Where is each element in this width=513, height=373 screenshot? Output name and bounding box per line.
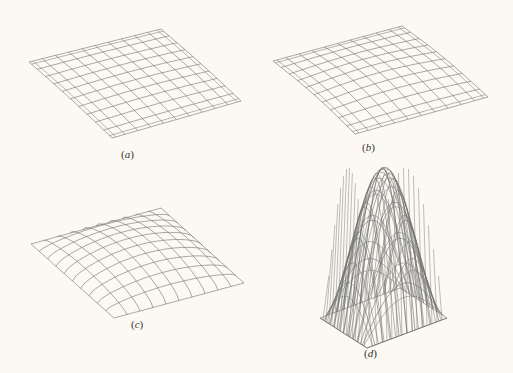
mesh-line	[71, 64, 202, 99]
mesh-line	[398, 27, 484, 98]
mesh-line	[110, 99, 239, 136]
mesh-line	[328, 283, 375, 345]
mesh-line	[281, 32, 410, 67]
mesh-line	[112, 101, 241, 138]
mesh-line	[339, 81, 471, 118]
mesh-line	[37, 36, 169, 69]
mesh-line	[366, 169, 413, 331]
mesh-line	[135, 36, 216, 109]
mesh-line	[161, 29, 241, 101]
mesh-line	[286, 58, 368, 131]
mesh-line	[69, 52, 151, 127]
mesh-line	[64, 232, 194, 273]
panel-d-mesh	[320, 168, 447, 348]
mesh-line	[314, 59, 445, 95]
panel-a-mesh	[29, 29, 241, 138]
mesh-line	[355, 97, 488, 134]
mesh-line	[55, 55, 137, 130]
mesh-line	[54, 50, 185, 84]
mesh-line	[135, 214, 218, 290]
mesh-line	[29, 29, 161, 62]
mesh-line	[114, 283, 244, 318]
panel-b-mesh	[273, 26, 488, 134]
mesh-line	[320, 318, 447, 348]
mesh-line	[70, 232, 153, 308]
mesh-line	[104, 93, 233, 130]
panel-c-label: (c)	[131, 318, 143, 330]
mesh-line	[108, 42, 189, 116]
mesh-line	[341, 169, 347, 331]
mesh-line	[148, 32, 228, 104]
mesh-line	[402, 26, 488, 97]
mesh-line	[62, 57, 193, 92]
mesh-line	[404, 168, 408, 333]
mesh-line	[312, 51, 395, 123]
mesh-line	[97, 265, 227, 303]
mesh-line	[350, 40, 434, 112]
mesh-line	[42, 59, 125, 135]
mesh-line	[157, 30, 237, 102]
mesh-line	[46, 43, 177, 77]
mesh-line	[354, 174, 401, 336]
mesh-line	[330, 73, 462, 109]
mesh-line	[434, 249, 438, 321]
panel-a-label: (a)	[121, 148, 134, 160]
panel-b-label: (b)	[362, 141, 375, 153]
mesh-line	[273, 26, 402, 61]
mesh-line	[289, 39, 419, 74]
mesh-line	[95, 46, 177, 120]
mesh-line	[31, 208, 161, 244]
mesh-line	[353, 202, 433, 339]
mesh-line	[277, 60, 359, 133]
mesh-line	[299, 54, 382, 127]
panel-c-mesh	[31, 208, 244, 318]
mesh-line	[376, 33, 461, 104]
mesh-line	[39, 214, 169, 251]
mesh-line	[424, 204, 428, 325]
mesh-line	[83, 228, 166, 304]
mesh-line	[363, 37, 448, 109]
panel-d-label: (d)	[364, 347, 377, 359]
mesh-line	[106, 274, 236, 310]
mesh-line	[298, 45, 428, 81]
surface-mesh-figure	[0, 0, 513, 373]
